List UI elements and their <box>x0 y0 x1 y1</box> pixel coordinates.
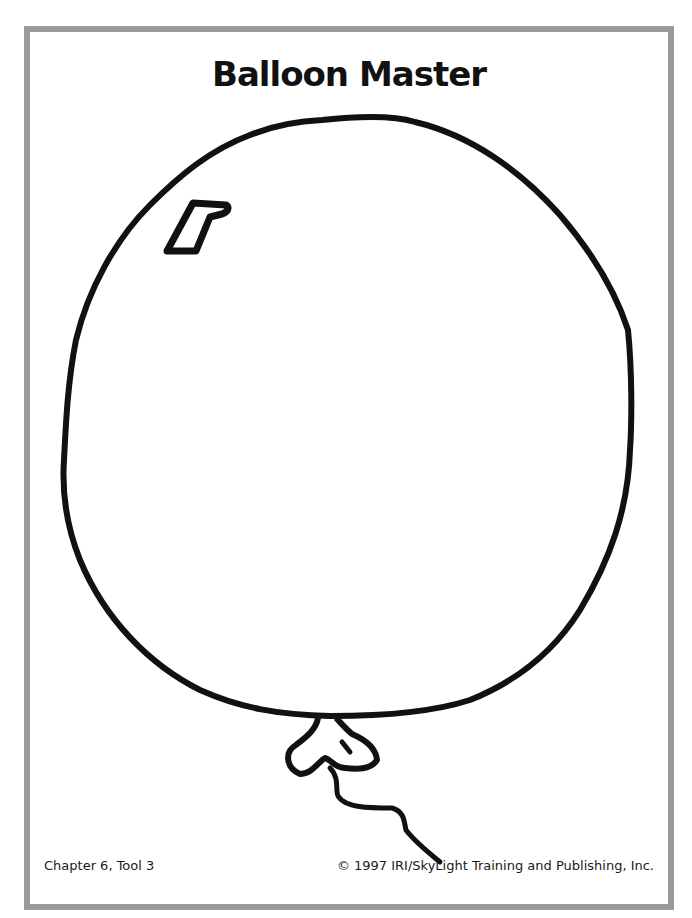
footer-copyright: © 1997 IRI/SkyLight Training and Publish… <box>337 858 654 873</box>
balloon-string <box>330 768 440 862</box>
balloon-knot <box>288 718 377 774</box>
balloon-outline <box>64 117 632 716</box>
balloon-knot-mark <box>342 742 350 752</box>
balloon-highlight <box>167 203 228 251</box>
page-border-frame: Balloon Master Chapter 6, Tool 3 © 1997 … <box>24 26 674 910</box>
balloon-illustration <box>0 0 692 918</box>
footer-chapter-label: Chapter 6, Tool 3 <box>44 858 154 873</box>
